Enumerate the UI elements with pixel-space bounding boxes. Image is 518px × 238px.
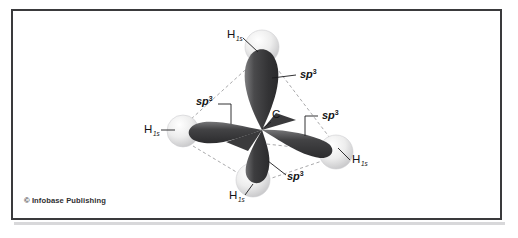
- h-sub-left: 1s: [153, 130, 161, 137]
- tetra-edge-top-left: [190, 62, 254, 120]
- h-label-left: H: [144, 123, 152, 135]
- h-label-right: H: [352, 153, 360, 165]
- h-label-bottom: H: [229, 189, 237, 201]
- sp3-label-bottom: sp3: [287, 170, 304, 182]
- sp3-label-left: sp3: [196, 95, 213, 107]
- leader-sp3-bottom: [268, 161, 286, 175]
- carbon-label: C: [272, 108, 280, 120]
- h-sub-top: 1s: [236, 35, 244, 42]
- copyright-notice: © Infobase Publishing: [24, 196, 106, 205]
- h-sub-right: 1s: [361, 160, 369, 167]
- sp3-lobe-right: [262, 130, 332, 158]
- h-sub-bottom: 1s: [238, 196, 246, 203]
- figure-root: C H 1s H 1s H 1s H 1s sp3 sp3 sp3 sp3 © …: [0, 0, 518, 238]
- h-label-top: H: [227, 28, 235, 40]
- leader-sp3-left: [218, 104, 231, 124]
- leader-sp3-right: [305, 116, 318, 136]
- tetra-edge-left-bottom: [188, 143, 243, 176]
- sp3-label-right: sp3: [322, 109, 339, 121]
- sp3-label-top: sp3: [300, 68, 317, 80]
